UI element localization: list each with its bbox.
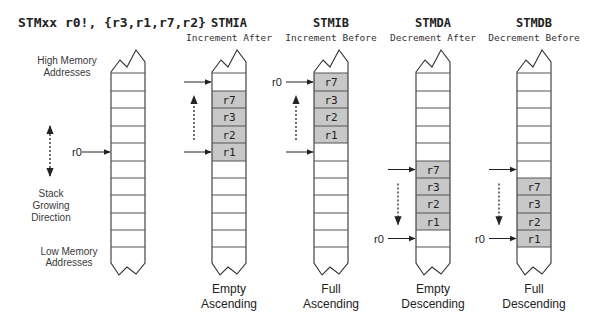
r0-label: r0 xyxy=(272,76,282,88)
mode-caption: Full xyxy=(524,282,543,296)
instruction-title: STMxx r0!, {r3,r1,r7,r2} xyxy=(18,15,206,30)
mode-caption: Descending xyxy=(502,297,565,311)
mode-subtitle: Increment Before xyxy=(285,32,377,43)
stm-addressing-modes-diagram: STMxx r0!, {r3,r1,r7,r2} High Memory Add… xyxy=(0,0,594,321)
mode-mnemonic: STMDA xyxy=(415,16,452,30)
register-label: r1 xyxy=(324,129,337,142)
high-memory-label-2: Addresses xyxy=(43,67,90,78)
memory-column-stmib: r7r3r2r1 xyxy=(314,50,348,275)
memory-column-stmdb: r7r3r2r1 xyxy=(517,50,551,275)
memory-column-stmia: r7r3r2r1 xyxy=(212,50,246,275)
growth-label-1: Stack xyxy=(38,188,64,199)
register-label: r3 xyxy=(527,198,540,211)
register-label: r7 xyxy=(324,76,337,89)
mode-caption: Descending xyxy=(401,297,464,311)
mode-mnemonic: STMIA xyxy=(211,16,248,30)
mode-subtitle: Increment After xyxy=(186,32,272,43)
reference-column: High Memory Addresses Stack Growing Dire… xyxy=(31,55,110,268)
mode-mnemonic: STMIB xyxy=(313,16,349,30)
register-label: r3 xyxy=(324,94,337,107)
memory-column-outline xyxy=(212,50,246,275)
mode-subtitle: Decrement After xyxy=(390,32,476,43)
mode-mnemonic: STMDB xyxy=(516,16,552,30)
mode-caption: Empty xyxy=(416,282,450,296)
register-label: r3 xyxy=(426,181,439,194)
mode-caption: Empty xyxy=(212,282,246,296)
r0-label: r0 xyxy=(475,233,485,245)
register-label: r3 xyxy=(222,111,235,124)
reference-memory-column xyxy=(111,50,145,275)
register-label: r7 xyxy=(426,164,439,177)
register-label: r2 xyxy=(426,198,439,211)
growth-label-3: Direction xyxy=(31,212,70,223)
register-label: r2 xyxy=(222,129,235,142)
register-label: r2 xyxy=(324,111,337,124)
register-label: r7 xyxy=(527,181,540,194)
mode-caption: Full xyxy=(321,282,340,296)
mode-caption: Ascending xyxy=(303,297,359,311)
low-memory-label: Low Memory xyxy=(40,246,97,257)
mode-caption: Ascending xyxy=(201,297,257,311)
r0-label: r0 xyxy=(374,233,384,245)
memory-column-outline xyxy=(111,50,145,275)
low-memory-label-2: Addresses xyxy=(45,257,92,268)
register-label: r1 xyxy=(222,146,235,159)
register-label: r1 xyxy=(426,216,439,229)
growth-label-2: Growing xyxy=(32,200,69,211)
register-label: r7 xyxy=(222,94,235,107)
register-label: r2 xyxy=(527,216,540,229)
high-memory-label: High Memory xyxy=(37,55,96,66)
register-label: r1 xyxy=(527,233,540,246)
mode-subtitle: Decrement Before xyxy=(488,32,580,43)
memory-column-stmda: r7r3r2r1 xyxy=(416,50,450,275)
r0-label: r0 xyxy=(72,146,82,158)
